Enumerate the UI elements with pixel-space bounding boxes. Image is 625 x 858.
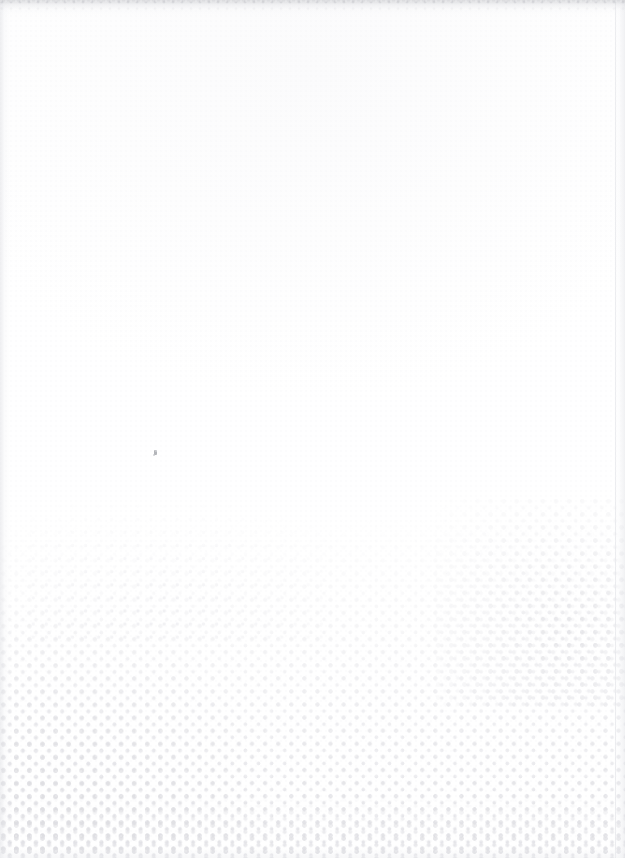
scan-edge-shadow-left: [0, 0, 10, 858]
ink-speck: [154, 450, 157, 455]
halftone-cluster-right: [435, 498, 625, 708]
scanned-page: [0, 0, 625, 858]
scan-edge-speckle-top: [0, 0, 625, 12]
scan-edge-shadow-bottom: [0, 848, 625, 858]
scan-edge-line-right: [615, 0, 616, 858]
